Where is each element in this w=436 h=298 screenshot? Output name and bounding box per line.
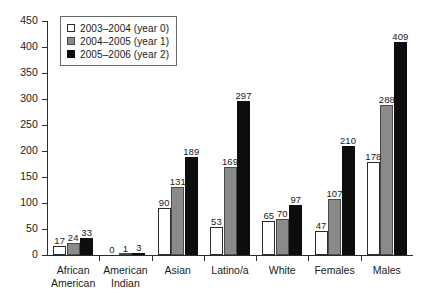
y-axis-tick-label: 250 [8,118,38,130]
bar [367,162,380,255]
y-axis-tick-label: 50 [8,222,38,234]
legend-item: 2005–2006 (year 2) [67,48,169,60]
bar [224,167,237,255]
bar-value-label: 210 [334,135,362,146]
bar [262,221,275,255]
white-square-icon [67,24,75,32]
bar [342,146,355,255]
legend-item: 2004–2005 (year 1) [67,35,169,47]
bar-value-label: 178 [359,151,387,162]
x-axis-category-label-line: Males [347,264,427,277]
y-axis-tick-label: 450 [8,14,38,26]
x-axis-category-label-line: Indian [85,277,165,290]
bar [185,157,198,255]
bar [315,231,328,255]
y-axis-tick-label: 300 [8,92,38,104]
bar-value-label: 297 [230,90,258,101]
y-axis-tick-label: 150 [8,170,38,182]
y-axis-tick-label: 0 [8,248,38,260]
bar-value-label: 53 [203,216,231,227]
bar-value-label: 189 [177,146,205,157]
bar-value-label: 288 [373,94,401,105]
y-axis-tick-label: 400 [8,40,38,52]
x-axis-group-separator [361,256,362,261]
x-axis-line [47,255,413,256]
bar-value-label: 33 [73,227,101,238]
x-axis-group-separator [99,256,100,261]
bar-chart: 050100150200250300350400450 172433013901… [0,0,436,298]
bar [276,219,289,255]
x-axis-group-separator [308,256,309,261]
bar [237,101,250,255]
x-axis-category-label: Males [347,264,427,277]
bar-value-label: 169 [216,156,244,167]
y-axis-tick-label: 350 [8,66,38,78]
bar-value-label: 107 [321,188,349,199]
gray-square-icon [67,37,75,45]
legend-item-label: 2003–2004 (year 0) [80,23,169,34]
chart-legend: 2003–2004 (year 0) 2004–2005 (year 1) 20… [60,16,177,66]
bar [53,246,66,255]
legend-item-label: 2004–2005 (year 1) [80,36,169,47]
bar-value-label: 90 [150,197,178,208]
bar [158,208,171,255]
y-axis-tick-label: 100 [8,196,38,208]
x-axis-group-separator [256,256,257,261]
bar-value-label: 3 [125,242,153,253]
bar-value-label: 409 [386,31,414,42]
x-axis-group-separator [204,256,205,261]
bar-value-label: 131 [164,176,192,187]
bar-value-label: 97 [282,194,310,205]
black-square-icon [67,50,75,58]
legend-item: 2003–2004 (year 0) [67,22,169,34]
y-axis-tick-label: 200 [8,144,38,156]
bar-value-label: 47 [307,220,335,231]
bar [210,227,223,255]
bar [380,105,393,255]
legend-item-label: 2005–2006 (year 2) [80,49,169,60]
x-axis-group-separator [152,256,153,261]
bar-value-label: 70 [268,208,296,219]
bar [394,42,407,255]
